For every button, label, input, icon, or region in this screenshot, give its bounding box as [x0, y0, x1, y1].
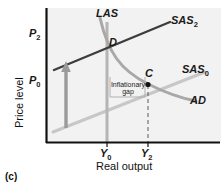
y-tick-p0-sub: 0: [36, 80, 40, 89]
curve-label-sas0-text: SAS: [182, 63, 205, 75]
curve-label-sas0-sub: 0: [205, 69, 209, 78]
y-axis-title: Price level: [14, 77, 26, 128]
curve-label-sas2-sub: 2: [194, 20, 198, 29]
point-label-d: D: [109, 37, 117, 49]
inflationary-gap-label: Inflationary gap: [108, 81, 148, 96]
curve-label-sas0: SAS0: [182, 64, 209, 78]
curve-label-las: LAS: [96, 8, 118, 20]
inflationary-gap-line1: Inflationary: [111, 81, 145, 88]
y-tick-p0: P0: [29, 75, 41, 89]
figure-panel-c: Price level P2 P0 Y0 Y2 Real output LAS …: [0, 0, 221, 188]
curve-label-sas2: SAS2: [171, 15, 198, 29]
inflationary-gap-line2: gap: [122, 88, 134, 95]
curve-label-ad-text: AD: [190, 94, 206, 106]
panel-caption: (c): [5, 172, 17, 183]
y-tick-p2-sub: 2: [36, 33, 40, 42]
curve-label-las-text: LAS: [96, 7, 118, 19]
curve-label-sas2-text: SAS: [171, 14, 194, 26]
curve-label-ad: AD: [190, 95, 206, 107]
y-tick-p2: P2: [29, 28, 41, 42]
x-axis-title: Real output: [96, 161, 152, 173]
point-label-c: C: [145, 68, 153, 80]
